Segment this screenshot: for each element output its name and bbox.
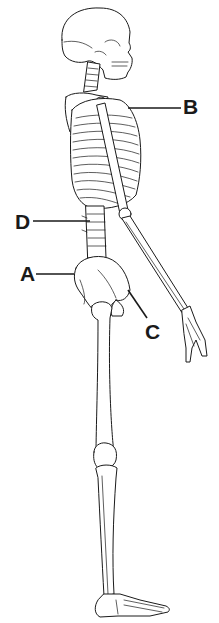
- label-a: A: [20, 263, 35, 284]
- femur: [91, 302, 116, 469]
- tibia-fibula: [96, 465, 117, 596]
- forearm: [122, 216, 188, 312]
- label-c: C: [145, 321, 160, 342]
- leader-line-c: [128, 290, 147, 318]
- hand: [182, 306, 207, 362]
- foot: [95, 594, 169, 617]
- label-b: B: [183, 96, 198, 117]
- lumbar-spine: [82, 206, 106, 258]
- label-d: D: [15, 211, 30, 232]
- cervical-spine: [84, 62, 100, 92]
- skeleton-diagram: [0, 0, 219, 623]
